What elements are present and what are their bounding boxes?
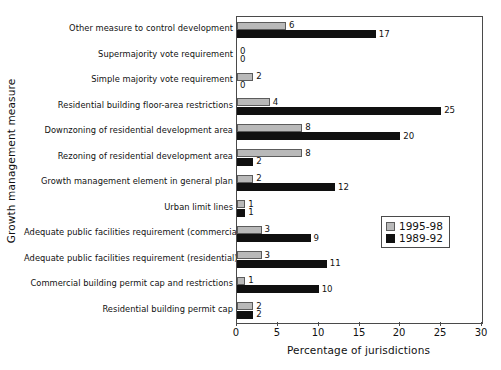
bar-value-label: 3 (265, 251, 270, 260)
bar-value-label: 0 (240, 81, 245, 90)
bar-1995-98 (237, 302, 253, 310)
y-axis-title-text: Growth management measure (5, 79, 17, 244)
bar-value-label: 2 (256, 157, 261, 166)
category-label: Residential building permit cap (24, 305, 233, 314)
bar-value-label: 8 (305, 149, 310, 158)
bar-1989-92 (237, 260, 327, 268)
bar-value-label: 9 (314, 234, 319, 243)
x-tick-mark (359, 322, 360, 326)
bar-value-label: 2 (256, 72, 261, 81)
x-tick-label: 5 (274, 327, 280, 338)
x-tick-mark (277, 322, 278, 326)
category-label-column: Other measure to control developmentSupe… (24, 16, 233, 322)
bar-1995-98 (237, 22, 286, 30)
bar-1989-92 (237, 132, 400, 140)
legend-item: 1995-98 (386, 220, 443, 232)
x-tick-mark (318, 322, 319, 326)
category-label: Residential building floor-area restrict… (24, 101, 233, 110)
bar-value-label: 10 (322, 285, 333, 294)
legend: 1995-98 1989-92 (381, 216, 450, 248)
bar-value-label: 2 (256, 174, 261, 183)
bars-container: 617002042582082212113931111022 (237, 17, 482, 323)
bar-value-label: 25 (444, 106, 455, 115)
bar-1989-92 (237, 183, 335, 191)
category-label: Adequate public facilities requirement (… (24, 254, 233, 263)
x-tick-label: 30 (475, 327, 488, 338)
x-tick-label: 0 (233, 327, 239, 338)
bar-1995-98 (237, 277, 245, 285)
plot-area: 617002042582082212113931111022 (236, 16, 483, 324)
bar-chart-figure: Growth management measure Other measure … (0, 0, 501, 370)
y-axis-title: Growth management measure (0, 0, 22, 322)
bar-value-label: 6 (289, 21, 294, 30)
category-label: Rezoning of residential development area (24, 152, 233, 161)
x-tick-mark (399, 322, 400, 326)
category-label: Urban limit lines (24, 203, 233, 212)
bar-1989-92 (237, 311, 253, 319)
bar-1989-92 (237, 285, 319, 293)
x-tick-mark (440, 322, 441, 326)
x-tick-label: 10 (312, 327, 325, 338)
category-label: Simple majority vote requirement (24, 75, 233, 84)
bar-1995-98 (237, 98, 270, 106)
bar-1995-98 (237, 226, 262, 234)
legend-label-1995-98: 1995-98 (399, 221, 443, 232)
bar-value-label: 11 (330, 259, 341, 268)
bar-1995-98 (237, 200, 245, 208)
bar-value-label: 1 (248, 276, 253, 285)
bar-1989-92 (237, 30, 376, 38)
x-tick-label: 20 (393, 327, 406, 338)
bar-1995-98 (237, 124, 302, 132)
bar-1989-92 (237, 107, 441, 115)
bar-value-label: 4 (273, 98, 278, 107)
bar-1995-98 (237, 175, 253, 183)
x-tick-mark (236, 322, 237, 326)
x-tick-label: 25 (434, 327, 447, 338)
category-label: Growth management element in general pla… (24, 177, 233, 186)
bar-1989-92 (237, 234, 311, 242)
category-label: Commercial building permit cap and restr… (24, 279, 233, 288)
bar-1989-92 (237, 158, 253, 166)
bar-value-label: 3 (265, 225, 270, 234)
bar-value-label: 17 (379, 30, 390, 39)
legend-swatch-1989-92 (386, 234, 395, 243)
category-label: Downzoning of residential development ar… (24, 126, 233, 135)
category-label: Adequate public facilities requirement (… (24, 228, 233, 237)
bar-1995-98 (237, 251, 262, 259)
bar-value-label: 0 (240, 55, 245, 64)
bar-value-label: 1 (248, 208, 253, 217)
bar-value-label: 20 (403, 132, 414, 141)
bar-value-label: 12 (338, 183, 349, 192)
x-tick-label: 15 (353, 327, 366, 338)
legend-swatch-1995-98 (386, 222, 395, 231)
x-axis-title: Percentage of jurisdictions (236, 344, 481, 356)
legend-item: 1989-92 (386, 232, 443, 244)
bar-1989-92 (237, 209, 245, 217)
bar-value-label: 8 (305, 123, 310, 132)
bar-1995-98 (237, 149, 302, 157)
legend-label-1989-92: 1989-92 (399, 233, 443, 244)
x-tick-mark (481, 322, 482, 326)
category-label: Other measure to control development (24, 24, 233, 33)
category-label: Supermajority vote requirement (24, 50, 233, 59)
bar-value-label: 2 (256, 310, 261, 319)
